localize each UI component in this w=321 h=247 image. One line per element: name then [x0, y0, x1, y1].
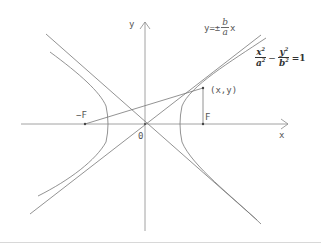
equals-one: =1	[292, 53, 306, 63]
right-focus-point	[202, 123, 204, 125]
left-focus-point	[84, 123, 86, 125]
x-axis-label: x	[279, 131, 284, 140]
asymptote-prefix: y=±	[204, 23, 220, 33]
hyperbola-equation: x2 a2 − y2 b2 =1	[255, 47, 305, 68]
focal-line-left	[85, 88, 203, 124]
origin-point	[144, 123, 146, 125]
asymptote-fraction: b a	[221, 18, 229, 37]
origin-label: 0	[138, 132, 143, 141]
asymptote-suffix: x	[230, 23, 235, 33]
term2-num-exponent: 2	[285, 46, 288, 52]
term2-fraction: y2 b2	[278, 47, 290, 68]
point-label: (x,y)	[210, 86, 237, 95]
term1-num-exponent: 2	[262, 46, 265, 52]
hyperbola-point	[202, 87, 204, 89]
minus-sign: −	[268, 53, 276, 63]
hyperbola-right-branch	[180, 38, 266, 224]
term2-den-exponent: 2	[285, 57, 288, 63]
hyperbola-diagram	[0, 0, 321, 247]
asymptote-denominator: a	[221, 28, 228, 37]
bottom-divider	[0, 242, 321, 243]
right-focus-label: F	[205, 113, 210, 122]
asymptote-equation: y=± b a x	[204, 18, 235, 37]
left-focus-label: −F	[76, 111, 87, 120]
y-axis-label: y	[129, 20, 134, 29]
term1-fraction: x2 a2	[255, 47, 266, 68]
asymptote-negative	[46, 34, 257, 220]
term1-den-exponent: 2	[262, 57, 265, 63]
